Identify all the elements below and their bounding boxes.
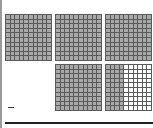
grid-cell [79, 79, 83, 83]
grid-cell [120, 29, 124, 33]
grid-cell [65, 52, 69, 56]
grid-cell [61, 74, 65, 78]
grid-cell [143, 88, 147, 92]
grid-cell [97, 29, 101, 33]
grid-cell [20, 43, 24, 47]
grid-cell [24, 56, 28, 60]
grid-cell [147, 106, 151, 110]
grid-cell [6, 47, 10, 51]
grid-cell [79, 38, 83, 42]
grid-cell [120, 56, 124, 60]
grid-cell [47, 47, 51, 51]
grid-cell [88, 93, 92, 97]
grid-cell [79, 74, 83, 78]
grid-cell [115, 15, 119, 19]
grid-cell [138, 102, 142, 106]
grid-cell [29, 15, 33, 19]
grid-cell [84, 15, 88, 19]
grid-cell [124, 43, 128, 47]
grid-cell [74, 29, 78, 33]
grid-cell [138, 15, 142, 19]
grid-cell [70, 106, 74, 110]
grid-cell [34, 56, 38, 60]
grid-cell [138, 97, 142, 101]
grid-cell [70, 93, 74, 97]
grid-cell [61, 43, 65, 47]
grid-cell [106, 102, 110, 106]
grid-cell [124, 29, 128, 33]
grid-cell [56, 74, 60, 78]
grid-cell [93, 93, 97, 97]
grid-cell [93, 20, 97, 24]
grid-cell [106, 20, 110, 24]
grid-cell [88, 29, 92, 33]
grid-cell [79, 33, 83, 37]
grid-cell [88, 56, 92, 60]
grid-cell [20, 24, 24, 28]
grid-cell [134, 20, 138, 24]
grid-cell [115, 74, 119, 78]
grid-cell [38, 15, 42, 19]
grid-cell [138, 24, 142, 28]
grid-cell [88, 47, 92, 51]
grid-cell [93, 74, 97, 78]
grid-cell [29, 56, 33, 60]
grid-cell [70, 83, 74, 87]
grid-cell [65, 79, 69, 83]
grid-cell [97, 106, 101, 110]
grid-cell [106, 88, 110, 92]
grid-cell [47, 33, 51, 37]
grid-cell [115, 33, 119, 37]
grid-cell [84, 65, 88, 69]
grid-cell [111, 70, 115, 74]
grid-cell [111, 56, 115, 60]
grid-cell [38, 33, 42, 37]
grid-cell [74, 102, 78, 106]
grid-cell [129, 93, 133, 97]
grid-cell [147, 88, 151, 92]
grid-cell [88, 65, 92, 69]
grid-cell [120, 102, 124, 106]
grid-cell [124, 74, 128, 78]
grid-cell [138, 29, 142, 33]
grid-cell [56, 24, 60, 28]
grid-cell [61, 106, 65, 110]
grid-cell [29, 33, 33, 37]
grid-cell [15, 56, 19, 60]
grid-cell [29, 24, 33, 28]
grid-cell [106, 56, 110, 60]
grid-cell [143, 97, 147, 101]
grid-cell [88, 74, 92, 78]
grid-cell [97, 79, 101, 83]
grid-cell [134, 88, 138, 92]
grid-cell [65, 70, 69, 74]
grid-cell [56, 56, 60, 60]
grid-cell [24, 38, 28, 42]
grid-cell [111, 52, 115, 56]
grid-cell [6, 38, 10, 42]
grid-cell [134, 65, 138, 69]
grid-cell [38, 47, 42, 51]
grid-cell [11, 56, 15, 60]
grid-cell [115, 83, 119, 87]
grid-cell [70, 15, 74, 19]
grid-cell [147, 52, 151, 56]
grid-cell [43, 29, 47, 33]
grid-cell [115, 52, 119, 56]
grid-cell [143, 106, 147, 110]
grid-cell [11, 38, 15, 42]
grid-cell [115, 43, 119, 47]
grid-cell [115, 88, 119, 92]
grid-cell [84, 93, 88, 97]
grid-cell [47, 20, 51, 24]
grid-cell [61, 52, 65, 56]
grid-cell [120, 79, 124, 83]
grid-cell [120, 15, 124, 19]
grid-cell [134, 102, 138, 106]
left-border [0, 0, 2, 128]
grid-cell [56, 97, 60, 101]
grid-cell [84, 33, 88, 37]
grid-cell [74, 106, 78, 110]
grid-cell [56, 88, 60, 92]
grid-cell [147, 97, 151, 101]
